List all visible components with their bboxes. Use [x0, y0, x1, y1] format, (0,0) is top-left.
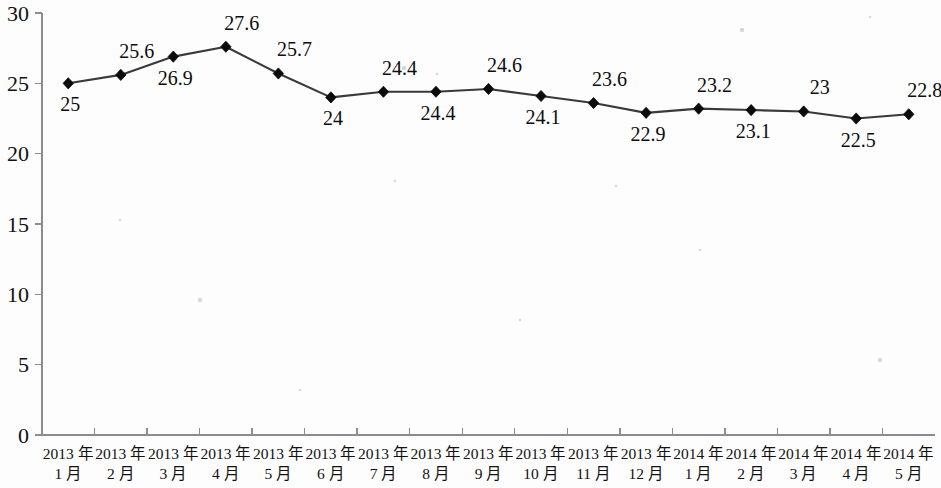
scan-speck: [740, 28, 744, 32]
x-category-label: 2013 年8 月: [411, 445, 462, 482]
scan-speck: [198, 298, 202, 302]
scan-speck: [878, 358, 882, 362]
x-axis-category-labels: 2013 年1 月2013 年2 月2013 年3 月2013 年4 月2013…: [43, 445, 934, 482]
scan-speck: [394, 180, 397, 183]
chart-page: 051015202530 2525.626.927.625.72424.424.…: [0, 0, 941, 488]
data-point-marker: [536, 90, 546, 101]
data-value-label: 23.6: [592, 68, 627, 90]
data-value-label: 25.7: [277, 38, 312, 60]
y-axis-ticks: 051015202530: [7, 1, 42, 448]
data-value-label: 24: [323, 107, 343, 129]
x-category-label: 2013 年3 月: [148, 445, 199, 482]
data-value-labels: 2525.626.927.625.72424.424.424.624.123.6…: [60, 12, 941, 151]
data-point-marker: [851, 113, 861, 124]
x-category-label: 2014 年3 月: [778, 445, 829, 482]
data-value-label: 27.6: [224, 12, 259, 34]
data-value-label: 24.4: [420, 102, 455, 124]
y-tick-label: 10: [7, 282, 29, 307]
x-category-label: 2013 年5 月: [253, 445, 304, 482]
data-value-label: 23: [810, 76, 830, 98]
scan-speck: [869, 16, 872, 19]
x-category-label: 2014 年4 月: [831, 445, 882, 482]
x-axis-ticks: [95, 428, 883, 435]
data-value-label: 22.9: [631, 123, 666, 145]
x-category-label: 2013 年9 月: [463, 445, 514, 482]
data-point-marker: [221, 41, 231, 52]
data-value-label: 23.2: [697, 74, 732, 96]
x-category-label: 2013 年2 月: [95, 445, 146, 482]
y-tick-label: 5: [18, 352, 29, 377]
data-value-label: 22.5: [841, 129, 876, 151]
y-tick-label: 0: [18, 423, 29, 448]
scan-speck: [299, 389, 302, 392]
data-point-marker: [326, 92, 336, 103]
y-tick-label: 15: [7, 212, 29, 237]
data-point-marker: [378, 86, 388, 97]
x-category-label: 2013 年1 月: [43, 445, 94, 482]
data-point-marker: [641, 107, 651, 118]
y-tick-label: 30: [7, 1, 29, 26]
data-point-marker: [431, 86, 441, 97]
x-category-label: 2014 年1 月: [673, 445, 724, 482]
x-category-label: 2013 年10 月: [516, 445, 567, 482]
x-category-label: 2013 年4 月: [200, 445, 251, 482]
scan-speck: [436, 73, 439, 76]
data-point-marker: [904, 109, 914, 120]
y-tick-label: 20: [7, 141, 29, 166]
x-category-label: 2014 年5 月: [883, 445, 934, 482]
scan-speck: [699, 249, 702, 252]
scan-speck: [615, 185, 618, 188]
data-point-marker: [63, 78, 73, 89]
data-value-label: 24.6: [487, 54, 522, 76]
x-category-label: 2013 年12 月: [621, 445, 672, 482]
x-category-label: 2013 年6 月: [305, 445, 356, 482]
data-point-marker: [116, 69, 126, 80]
data-value-label: 26.9: [158, 67, 193, 89]
data-point-marker: [168, 51, 178, 62]
data-value-label: 22.8: [907, 79, 941, 101]
data-point-marker: [483, 83, 493, 94]
data-point-marker: [798, 106, 808, 117]
x-category-label: 2014 年2 月: [726, 445, 777, 482]
data-point-marker: [273, 68, 283, 79]
x-category-label: 2013 年11 月: [568, 445, 619, 482]
scan-speck: [119, 219, 122, 222]
data-value-label: 24.1: [526, 106, 561, 128]
y-tick-label: 25: [7, 71, 29, 96]
data-point-marker: [588, 97, 598, 108]
data-value-label: 23.1: [736, 120, 771, 142]
data-point-marker: [746, 104, 756, 115]
data-value-label: 25.6: [119, 40, 154, 62]
line-chart: 051015202530 2525.626.927.625.72424.424.…: [0, 0, 941, 488]
data-value-label: 25: [60, 93, 80, 115]
data-point-marker: [693, 103, 703, 114]
scan-speck: [519, 319, 522, 322]
x-category-label: 2013 年7 月: [358, 445, 409, 482]
data-value-label: 24.4: [382, 57, 417, 79]
